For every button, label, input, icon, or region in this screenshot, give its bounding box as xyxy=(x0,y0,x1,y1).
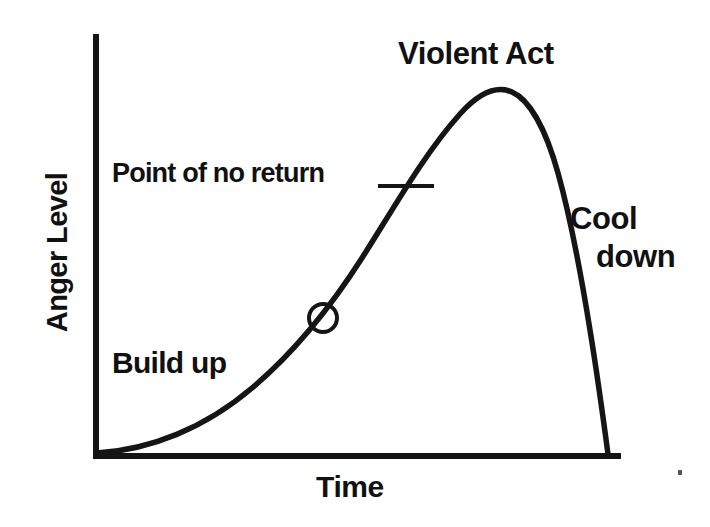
point-of-no-return-label: Point of no return xyxy=(112,160,324,187)
cool-down-label-line-2: down xyxy=(596,241,675,272)
scan-speck-artifact xyxy=(678,470,682,475)
violent-act-label: Violent Act xyxy=(398,38,554,69)
x-axis-label: Time xyxy=(316,472,384,502)
anger-cycle-figure: Violent Act Point of no return Cool down… xyxy=(0,0,710,527)
y-axis-label: Anger Level xyxy=(43,158,72,348)
anger-level-curve xyxy=(97,90,608,454)
build-up-label: Build up xyxy=(112,348,226,378)
no-return-circle-marker xyxy=(309,304,337,332)
cool-down-label-line-1: Cool xyxy=(570,203,637,234)
